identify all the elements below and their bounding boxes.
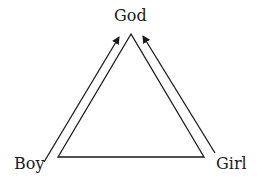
god-label: God [114, 8, 147, 24]
girl-to-god-arrow [143, 36, 215, 153]
boy-to-god-arrow [44, 37, 119, 162]
boy-label: Boy [14, 156, 44, 172]
triangle [58, 34, 204, 157]
girl-label: Girl [216, 156, 247, 172]
